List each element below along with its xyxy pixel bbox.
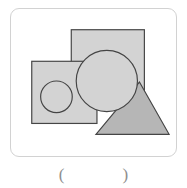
answer-line: ( ) bbox=[0, 160, 187, 188]
close-paren: ) bbox=[123, 166, 129, 183]
answer-parentheses[interactable]: ( ) bbox=[59, 166, 128, 183]
figure-frame bbox=[10, 8, 177, 157]
figure-canvas bbox=[11, 9, 176, 156]
inner-circle-shape bbox=[41, 81, 73, 113]
answer-blank[interactable] bbox=[65, 174, 123, 175]
large-circle-shape bbox=[76, 50, 137, 111]
shape-figure-question: ( ) bbox=[0, 0, 187, 188]
